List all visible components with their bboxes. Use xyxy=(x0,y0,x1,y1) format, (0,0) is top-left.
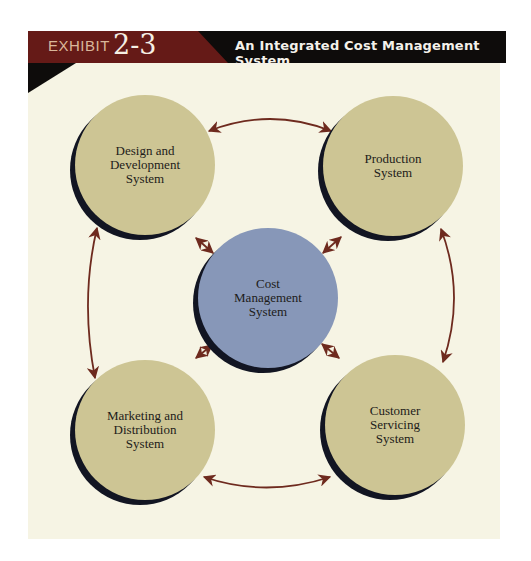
cost-management-diagram: Design andDevelopmentSystemProductionSys… xyxy=(0,0,531,561)
node-label-line: System xyxy=(249,304,287,319)
connection-arrow-production-customer xyxy=(441,229,454,362)
connection-arrow-marketing-design xyxy=(88,228,97,378)
connection-arrow-cost-customer xyxy=(322,344,339,358)
node-design: Design andDevelopmentSystem xyxy=(70,95,215,240)
node-label-line: System xyxy=(374,165,412,180)
node-customer: CustomerServicingSystem xyxy=(320,355,465,500)
node-label-line: Distribution xyxy=(114,422,177,437)
node-label-line: Production xyxy=(364,151,422,166)
node-label-line: Management xyxy=(234,290,302,305)
connection-arrow-cost-production xyxy=(323,237,341,253)
node-cost: CostManagementSystem xyxy=(193,228,338,373)
node-label-line: Cost xyxy=(256,276,280,291)
node-label-line: System xyxy=(376,431,414,446)
connection-arrow-design-production xyxy=(209,119,331,131)
node-production: ProductionSystem xyxy=(318,96,463,241)
node-label-line: System xyxy=(126,171,164,186)
node-label-line: Development xyxy=(110,157,180,172)
connection-arrow-customer-marketing xyxy=(204,477,330,488)
node-label-line: Design and xyxy=(116,143,175,158)
node-label-line: Customer xyxy=(370,403,421,418)
connection-arrow-cost-design xyxy=(196,238,213,253)
nodes-layer: Design andDevelopmentSystemProductionSys… xyxy=(70,95,465,505)
node-marketing: Marketing andDistributionSystem xyxy=(70,360,215,505)
node-label-line: Marketing and xyxy=(107,408,184,423)
node-label-line: Servicing xyxy=(370,417,420,432)
node-label-line: System xyxy=(126,436,164,451)
